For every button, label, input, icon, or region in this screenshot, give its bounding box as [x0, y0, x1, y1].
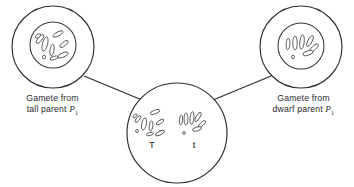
right-caption-line-1: Gamete from: [255, 93, 352, 104]
chromosome: [293, 36, 297, 50]
left-gamete-group: [12, 6, 94, 88]
chromosome: [286, 38, 291, 49]
allele-label-recessive: t: [193, 139, 196, 150]
left-caption-line-2: tall parent P1: [6, 104, 99, 118]
chromosome: [136, 129, 139, 132]
allele-label-dominant: T: [149, 139, 155, 150]
chromosome: [183, 132, 186, 135]
zygote-group: T t: [127, 83, 227, 183]
left-caption-line-1: Gamete from: [6, 93, 99, 104]
right-gamete-caption: Gamete from dwarf parent P1: [255, 93, 352, 118]
left-gamete-caption: Gamete from tall parent P1: [6, 93, 99, 118]
right-caption-text: dwarf parent: [273, 104, 326, 114]
right-caption-line-2: dwarf parent P1: [255, 104, 352, 118]
right-gamete-group: [260, 6, 342, 88]
parent-generation-subscript: 1: [75, 109, 78, 116]
zygote-membrane: [127, 83, 227, 183]
parent-generation-subscript: 1: [331, 109, 334, 116]
chromosome: [184, 113, 188, 125]
chromosome: [179, 115, 183, 125]
chromosome: [292, 55, 295, 58]
fertilization-diagram: T t Gamete from tall parent P1 Gamete fr…: [0, 0, 354, 187]
left-caption-text: tall parent: [27, 104, 69, 114]
chromosome: [42, 55, 45, 59]
